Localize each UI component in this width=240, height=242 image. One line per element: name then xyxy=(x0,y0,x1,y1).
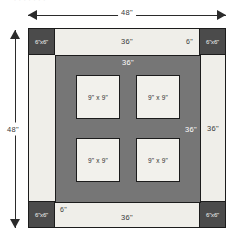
field-label-right: 36" xyxy=(185,125,197,134)
center-block-label: 9" x 9" xyxy=(148,94,168,101)
corner-tile-top-left: 6"x6" xyxy=(29,29,55,55)
border-label-bottom-center: 36" xyxy=(121,213,133,222)
corner-tile-label: 6"x6" xyxy=(35,212,48,218)
center-block: 9" x 9" xyxy=(76,75,120,119)
dimension-arrow-width: 48" xyxy=(28,9,226,22)
center-block-label: 9" x 9" xyxy=(88,157,108,164)
corner-tile-label: 6"x6" xyxy=(206,39,219,45)
corner-tile-label: 6"x6" xyxy=(206,212,219,218)
dimension-arrow-height: 48" xyxy=(9,30,22,228)
corner-tile-bottom-right: 6"x6" xyxy=(199,201,225,227)
corner-tile-top-right: 6"x6" xyxy=(199,29,225,55)
corner-tile-bottom-left: 6"x6" xyxy=(29,201,55,227)
border-label-right-center: 36" xyxy=(207,124,219,133)
center-block-label: 9" x 9" xyxy=(148,157,168,164)
arrowhead-right-icon xyxy=(217,10,226,20)
border-label-top-right: 6" xyxy=(186,38,193,45)
center-block: 9" x 9" xyxy=(76,138,120,182)
arrowhead-down-icon xyxy=(10,219,20,228)
inner-field: 36" 36" 9" x 9" 9" x 9" 9" x 9" 9" x 9" xyxy=(55,55,201,203)
center-block: 9" x 9" xyxy=(136,75,180,119)
corner-tile-label: 6"x6" xyxy=(35,39,48,45)
field-label-top: 36" xyxy=(122,58,134,67)
dimension-label-width: 48" xyxy=(118,8,136,17)
border-label-top-center: 36" xyxy=(121,37,133,46)
border-label-bottom-left: 6" xyxy=(60,206,67,213)
center-block-label: 9" x 9" xyxy=(88,94,108,101)
tile-layout-plan: 36" 6" 36" 6" 36" 6"x6" 6"x6" 6"x6" 6"x6… xyxy=(28,28,226,228)
center-block: 9" x 9" xyxy=(136,138,180,182)
dimension-label-height: 48" xyxy=(7,123,19,136)
cropped-caption-fragment: · · · · · · · xyxy=(14,0,46,3)
